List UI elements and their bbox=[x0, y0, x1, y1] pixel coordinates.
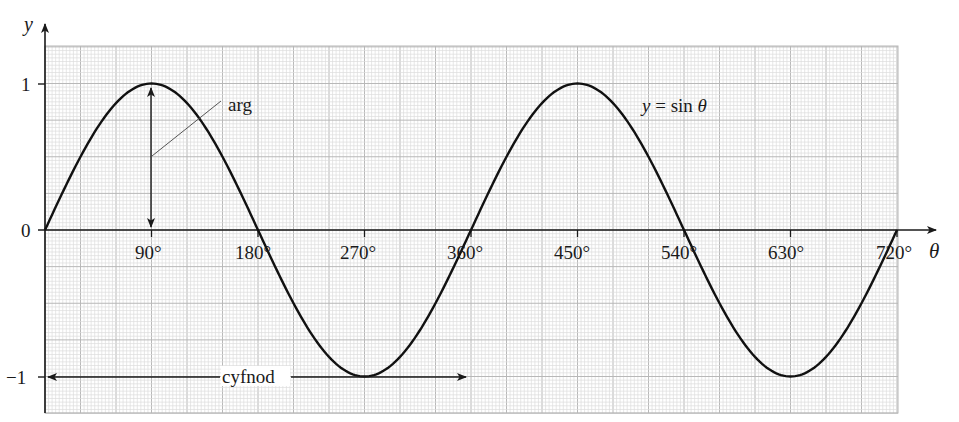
x-tick-label-180: 180° bbox=[235, 242, 271, 263]
eq-theta: θ bbox=[698, 95, 707, 116]
eq-y: y bbox=[640, 95, 651, 116]
sine-graph: arg cyfnod y = sin θ y θ 1 0 −1 90° 180°… bbox=[0, 0, 959, 422]
y-tick-label-1: 1 bbox=[21, 74, 31, 95]
x-tick-label-360: 360° bbox=[447, 242, 483, 263]
x-tick-label-90: 90° bbox=[135, 242, 162, 263]
eq-rest: = sin bbox=[650, 95, 697, 116]
y-axis-label: y bbox=[22, 13, 33, 36]
x-tick-label-450: 450° bbox=[554, 242, 590, 263]
y-tick-label-minus-1: −1 bbox=[6, 367, 26, 388]
y-tick-label-0: 0 bbox=[21, 220, 31, 241]
x-tick-label-540: 540° bbox=[661, 242, 697, 263]
curve-equation-label: y = sin θ bbox=[640, 95, 707, 116]
x-axis-label: θ bbox=[929, 239, 939, 263]
x-tick-label-270: 270° bbox=[340, 242, 376, 263]
period-label: cyfnod bbox=[222, 366, 275, 387]
x-tick-label-630: 630° bbox=[768, 242, 804, 263]
amplitude-label: arg bbox=[228, 94, 252, 115]
x-tick-label-720: 720° bbox=[876, 242, 912, 263]
